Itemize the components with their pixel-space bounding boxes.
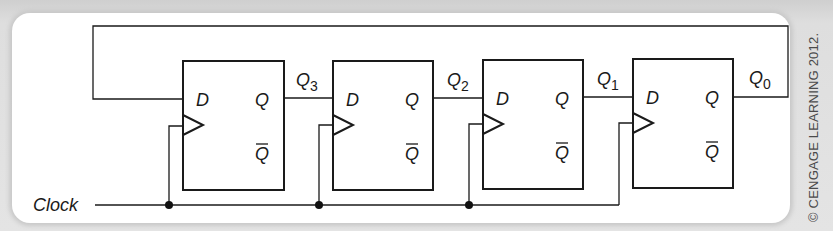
- signal-q0-label: Q0: [749, 68, 771, 92]
- clock-wire-ff3: [469, 124, 483, 205]
- ff4-qbar-label: Q: [705, 142, 719, 162]
- ff1-qbar-label: Q: [255, 144, 269, 164]
- junction-dot: [465, 201, 473, 209]
- junction-dot: [315, 201, 323, 209]
- ff2-qbar-label: Q: [405, 144, 419, 164]
- clock-label: Clock: [33, 195, 79, 215]
- copyright-notice: © CENGAGE LEARNING 2012.: [806, 33, 821, 222]
- signal-q3-label: Q3: [296, 70, 318, 94]
- ff2-d-label: D: [346, 90, 359, 110]
- flip-flop-1: [183, 61, 284, 190]
- ff1-q-label: Q: [255, 90, 269, 110]
- ff4-q-label: Q: [705, 88, 719, 108]
- flip-flop-3: [483, 60, 583, 189]
- junction-dot: [165, 201, 173, 209]
- clock-wire-ff2: [319, 125, 333, 205]
- clock-wire-ff1: [169, 126, 183, 205]
- signal-q2-label: Q2: [447, 70, 469, 94]
- clock-wire-ff4: [619, 123, 633, 205]
- ff3-q-label: Q: [555, 89, 569, 109]
- ff2-q-label: Q: [405, 90, 419, 110]
- ff3-d-label: D: [496, 89, 509, 109]
- ff4-d-label: D: [646, 88, 659, 108]
- ff3-qbar-label: Q: [555, 143, 569, 163]
- flip-flop-4: [633, 59, 733, 188]
- ring-counter-circuit: D Q Q D Q Q D Q Q D Q Q Q3 Q2 Q1 Q0 Cloc…: [0, 0, 833, 231]
- signal-q1-label: Q1: [597, 69, 619, 93]
- ff1-d-label: D: [196, 90, 209, 110]
- flip-flop-2: [333, 61, 433, 190]
